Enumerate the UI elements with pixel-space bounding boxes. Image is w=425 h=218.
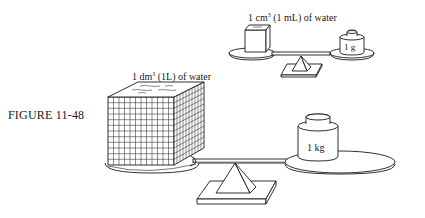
small-weight-label: 1 g xyxy=(344,43,355,52)
small-water-cube xyxy=(245,25,270,52)
small-pyramid-fulcrum xyxy=(292,56,311,71)
large-1kg-weight xyxy=(298,114,338,161)
large-balance xyxy=(105,82,395,204)
balance-illustration xyxy=(0,0,425,218)
small-beam xyxy=(272,52,330,55)
large-pyramid-fulcrum xyxy=(216,163,256,193)
large-beam xyxy=(193,159,289,163)
large-water-cube xyxy=(108,82,204,165)
large-weight-label: 1 kg xyxy=(307,143,325,153)
